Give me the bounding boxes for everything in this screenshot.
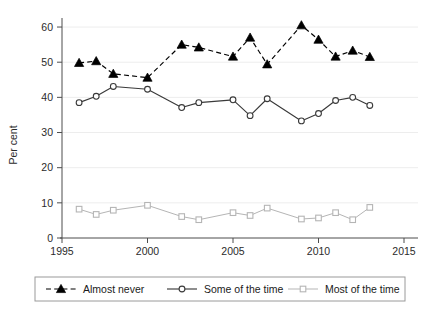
- data-point-marker: [92, 57, 101, 65]
- data-point-marker: [230, 210, 236, 216]
- data-point-marker: [367, 103, 373, 109]
- chart-container: 0102030405060 19952000200520102015 Per c…: [0, 0, 440, 317]
- data-point-marker: [76, 100, 82, 106]
- data-point-marker: [111, 207, 117, 213]
- legend-label: Almost never: [83, 283, 145, 295]
- series-most-of-the-time: [76, 203, 372, 223]
- data-point-marker: [333, 210, 339, 216]
- data-point-marker: [145, 203, 151, 209]
- data-point-marker: [348, 46, 357, 54]
- data-point-marker: [350, 94, 356, 100]
- y-tick-label-20: 20: [41, 161, 53, 173]
- data-point-marker: [300, 286, 306, 292]
- data-point-marker: [230, 97, 236, 103]
- data-series-group: [75, 21, 375, 223]
- data-point-marker: [247, 213, 253, 219]
- data-point-marker: [179, 214, 185, 220]
- line-chart: 0102030405060 19952000200520102015 Per c…: [0, 0, 440, 317]
- x-tick-label-2010: 2010: [307, 245, 331, 257]
- data-point-marker: [179, 105, 185, 111]
- data-point-marker: [177, 40, 186, 48]
- gridlines: [62, 27, 418, 203]
- y-axis-title: Per cent: [7, 125, 19, 164]
- data-point-marker: [297, 21, 306, 29]
- legend-label: Some of the time: [204, 283, 284, 295]
- data-point-marker: [228, 52, 237, 60]
- x-axis: 19952000200520102015: [50, 238, 418, 257]
- series-line: [79, 86, 370, 120]
- data-point-marker: [109, 69, 118, 77]
- y-tick-label-40: 40: [41, 91, 53, 103]
- legend-item-some-of-the-time[interactable]: Some of the time: [167, 283, 284, 295]
- series-line: [79, 205, 370, 219]
- data-point-marker: [110, 84, 116, 90]
- data-point-marker: [196, 217, 202, 223]
- data-point-marker: [365, 52, 374, 60]
- data-point-marker: [93, 212, 99, 218]
- data-point-marker: [264, 96, 270, 102]
- data-point-marker: [76, 206, 82, 212]
- x-tick-label-2005: 2005: [221, 245, 245, 257]
- data-point-marker: [196, 100, 202, 106]
- data-point-marker: [246, 33, 255, 41]
- legend-label: Most of the time: [325, 283, 400, 295]
- y-tick-label-60: 60: [41, 21, 53, 33]
- data-point-marker: [247, 113, 253, 119]
- y-tick-label-50: 50: [41, 56, 53, 68]
- data-point-marker: [316, 215, 322, 221]
- data-point-marker: [93, 93, 99, 99]
- data-point-marker: [367, 205, 373, 211]
- data-point-marker: [264, 205, 270, 211]
- data-point-marker: [299, 216, 305, 222]
- y-tick-label-30: 30: [41, 126, 53, 138]
- x-tick-label-2000: 2000: [136, 245, 160, 257]
- y-tick-label-0: 0: [47, 232, 53, 244]
- x-tick-label-2015: 2015: [392, 245, 416, 257]
- chart-legend: Almost neverSome of the timeMost of the …: [35, 277, 405, 301]
- data-point-marker: [316, 111, 322, 117]
- legend-item-most-of-the-time[interactable]: Most of the time: [288, 283, 400, 295]
- data-point-marker: [299, 118, 305, 124]
- data-point-marker: [263, 60, 272, 68]
- series-some-of-the-time: [76, 84, 373, 124]
- series-line: [79, 25, 370, 77]
- series-almost-never: [75, 21, 375, 82]
- y-tick-label-10: 10: [41, 197, 53, 209]
- data-point-marker: [179, 286, 185, 292]
- data-point-marker: [333, 98, 339, 104]
- x-tick-label-1995: 1995: [50, 245, 74, 257]
- legend-item-almost-never[interactable]: Almost never: [46, 283, 145, 295]
- y-axis: 0102030405060: [41, 18, 62, 244]
- data-point-marker: [350, 217, 356, 223]
- data-point-marker: [145, 86, 151, 92]
